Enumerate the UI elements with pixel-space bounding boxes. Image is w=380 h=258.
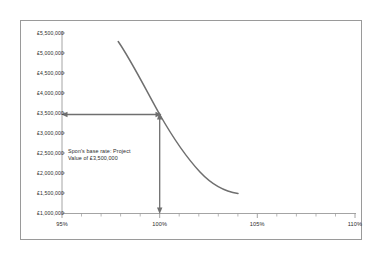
base-rate-annotation: Spon's base rate: Project Value of £3,50… bbox=[68, 148, 154, 162]
y-tick-label: £4,500,000 bbox=[22, 70, 64, 76]
x-tick-label: 100% bbox=[140, 221, 180, 227]
y-tick-label: £1,500,000 bbox=[22, 190, 64, 196]
y-tick-label: £5,500,000 bbox=[22, 30, 64, 36]
x-tick-label: 110% bbox=[335, 221, 375, 227]
x-tick-label: 105% bbox=[237, 221, 277, 227]
y-tick-label: £2,000,000 bbox=[22, 170, 64, 176]
chart-figure: £5,500,000 £5,000,000 £4,500,000 £4,000,… bbox=[0, 0, 380, 258]
y-tick-label: £1,000,000 bbox=[22, 210, 64, 216]
y-tick-label: £5,000,000 bbox=[22, 50, 64, 56]
annotation-line-2: Value of £3,500,000 bbox=[68, 155, 154, 162]
y-tick-label: £3,500,000 bbox=[22, 110, 64, 116]
y-tick-label: £4,000,000 bbox=[22, 90, 64, 96]
y-tick-label: £3,000,000 bbox=[22, 130, 64, 136]
annotation-line-1: Spon's base rate: Project bbox=[68, 148, 154, 155]
chart-frame bbox=[20, 20, 362, 240]
y-tick-label: £2,500,000 bbox=[22, 150, 64, 156]
x-tick-label: 95% bbox=[42, 221, 82, 227]
